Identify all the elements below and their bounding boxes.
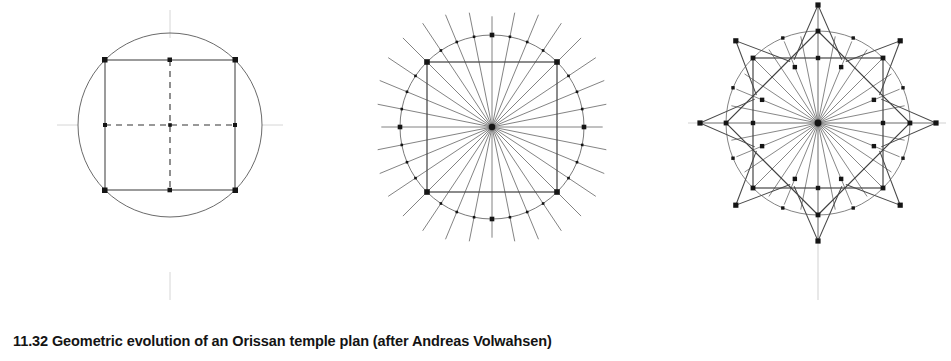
node-13	[542, 202, 545, 205]
node-27	[414, 75, 417, 78]
node-circle-22	[731, 157, 734, 160]
node-square-corner-0	[424, 59, 429, 64]
node-square0-corner-3	[881, 56, 886, 61]
figure-caption-number: 11.32	[13, 333, 48, 349]
node-star-tip-1	[898, 38, 903, 43]
node-circle-18	[781, 206, 784, 209]
node-22	[406, 161, 409, 164]
node-2	[526, 41, 529, 44]
node-interior-7	[793, 65, 797, 69]
node-17	[473, 216, 476, 219]
node-30	[455, 41, 458, 44]
figure-plate	[0, 0, 951, 310]
radial-spoke-12	[492, 127, 581, 216]
node-circle-6	[901, 86, 904, 89]
node-center	[168, 123, 172, 127]
radial-spoke-14	[492, 127, 539, 239]
stage1-content	[57, 10, 283, 300]
node-star-tip-0	[815, 2, 820, 7]
radial-spoke-18	[446, 127, 493, 239]
diagram-stage-3-stellate-plan	[686, 0, 951, 310]
diagram-stage-1-circle-inscribed-square	[55, 0, 285, 310]
node-11	[567, 177, 570, 180]
node-14	[526, 211, 529, 214]
node-square0-mid-2	[816, 186, 820, 190]
radial-spoke-30	[446, 15, 493, 127]
node-15	[509, 216, 512, 219]
diagram-stage-2-radial-spokes	[372, 0, 614, 310]
node-circle-14	[852, 206, 855, 209]
node-corner-bottom-right	[233, 188, 239, 194]
radial-spoke-10	[492, 127, 604, 174]
radial-spoke-4	[492, 38, 581, 127]
node-circle-2	[852, 36, 855, 39]
node-interior-1	[872, 98, 876, 102]
node-29	[440, 49, 443, 52]
node-24	[398, 125, 403, 130]
node-5	[567, 75, 570, 78]
radial-spoke-2	[492, 15, 539, 127]
node-25	[400, 108, 403, 111]
radial-spoke-26	[380, 81, 492, 128]
node-square-corner-1	[554, 59, 559, 64]
radial-spoke-20	[753, 123, 818, 188]
figure-caption: 11.32 Geometric evolution of an Orissan …	[13, 331, 933, 351]
node-6	[576, 90, 579, 93]
node-8	[582, 125, 587, 130]
figure-page: 11.32 Geometric evolution of an Orissan …	[0, 0, 951, 361]
radial-spoke-6	[492, 81, 604, 128]
node-interior-0	[839, 65, 843, 69]
radial-spoke-4	[818, 58, 883, 123]
node-square0-corner-0	[881, 186, 886, 191]
radial-spoke-12	[818, 123, 883, 188]
stage2-content	[378, 13, 607, 242]
node-interior-2	[872, 144, 876, 148]
node-31	[473, 35, 476, 38]
node-center	[489, 124, 495, 130]
node-square45-corner-2	[724, 121, 729, 126]
node-0	[490, 33, 495, 38]
node-star-tip-5	[733, 203, 738, 208]
node-mid-right	[233, 123, 237, 127]
node-mid-left	[103, 123, 107, 127]
node-square0-corner-1	[751, 186, 756, 191]
node-square-corner-2	[554, 189, 559, 194]
node-16	[490, 217, 495, 222]
node-7	[581, 108, 584, 111]
node-star-tip-6	[697, 120, 702, 125]
node-star-tip-4	[815, 238, 820, 243]
stage3-content	[688, 2, 946, 300]
node-10	[576, 161, 579, 164]
radial-spoke-20	[403, 127, 492, 216]
node-18	[455, 211, 458, 214]
node-star-tip-2	[933, 120, 938, 125]
node-corner-bottom-left	[102, 188, 108, 194]
node-interior-4	[793, 177, 797, 181]
figure-caption-text: Geometric evolution of an Orissan temple…	[52, 333, 552, 349]
node-26	[406, 90, 409, 93]
node-circle-30	[781, 36, 784, 39]
node-square0-mid-1	[881, 121, 885, 125]
node-19	[440, 202, 443, 205]
node-center	[815, 120, 822, 127]
node-circle-10	[901, 157, 904, 160]
node-1	[509, 35, 512, 38]
node-23	[400, 144, 403, 147]
node-corner-top-right	[233, 57, 239, 63]
node-square0-corner-2	[751, 56, 756, 61]
radial-spoke-28	[403, 38, 492, 127]
node-3	[542, 49, 545, 52]
node-square45-corner-3	[816, 29, 821, 34]
radial-spoke-22	[380, 127, 492, 174]
node-interior-6	[760, 98, 764, 102]
node-corner-top-left	[102, 57, 108, 63]
node-mid-bottom	[168, 188, 173, 193]
node-square45-corner-0	[908, 121, 913, 126]
node-circle-26	[731, 86, 734, 89]
node-mid-top	[168, 58, 173, 63]
node-square-corner-3	[424, 189, 429, 194]
node-21	[414, 177, 417, 180]
node-star-tip-3	[898, 203, 903, 208]
node-9	[581, 144, 584, 147]
radial-spoke-28	[753, 58, 818, 123]
